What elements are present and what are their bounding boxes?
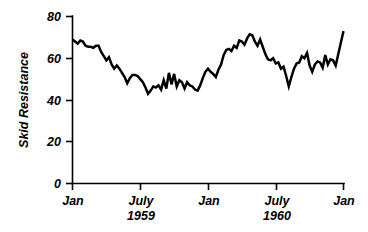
x-tick-year-1960: 1960 bbox=[263, 209, 291, 223]
x-tick-label-july-1959: July bbox=[128, 194, 154, 208]
y-tick-label-80: 80 bbox=[47, 10, 61, 24]
chart-figure: 80 60 40 20 0 Jan July 1959 Jan July 196… bbox=[0, 0, 368, 232]
chart-canvas: 80 60 40 20 0 Jan July 1959 Jan July 196… bbox=[0, 0, 368, 232]
y-tick-label-60: 60 bbox=[47, 52, 61, 66]
x-tick-label-jan-1959: Jan bbox=[62, 194, 84, 208]
y-tick-label-40: 40 bbox=[46, 94, 61, 108]
y-tick-label-0: 0 bbox=[54, 177, 61, 191]
y-tick-label-20: 20 bbox=[46, 135, 61, 149]
x-tick-label-jan-1961: Jan bbox=[333, 194, 355, 208]
x-tick-year-1959: 1959 bbox=[127, 209, 155, 223]
skid-resistance-line bbox=[73, 31, 344, 94]
x-tick-label-july-1960: July bbox=[264, 194, 290, 208]
x-tick-label-jan-1960: Jan bbox=[198, 194, 220, 208]
y-axis-title: Skid Resistance bbox=[17, 52, 31, 148]
